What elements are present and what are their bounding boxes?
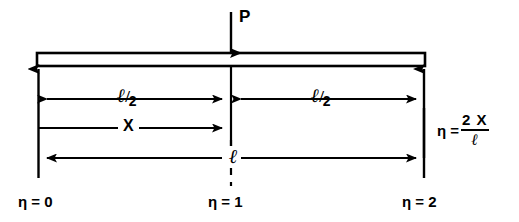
point-load-label: P — [239, 8, 250, 25]
eta-formula-fraction: 2 X ℓ — [461, 112, 489, 149]
station-label-eta-1: η = 1 — [208, 194, 243, 209]
beam-diagram-graphics — [0, 0, 519, 222]
eta-definition-formula: η = 2 X ℓ — [437, 112, 489, 149]
eta-formula-denominator: ℓ — [471, 131, 478, 149]
half-span-right-label: ℓ/2 — [311, 86, 332, 105]
eta-formula-lhs: η = — [437, 122, 459, 139]
full-span-label: ℓ — [226, 146, 241, 166]
half-span-left-label: ℓ/2 — [117, 86, 138, 105]
distance-x-label: X — [118, 118, 139, 134]
half-span-right-ell: ℓ — [311, 85, 319, 106]
station-label-eta-0: η = 0 — [18, 194, 53, 209]
station-label-eta-2: η = 2 — [402, 194, 437, 209]
eta-formula-numerator: 2 X — [461, 112, 489, 129]
half-span-left-ell: ℓ — [117, 85, 125, 106]
half-span-right-denominator: 2 — [323, 93, 331, 109]
half-span-left-denominator: 2 — [129, 93, 137, 109]
beam-member — [37, 53, 425, 66]
beam-diagram: P ℓ/2 ℓ/2 X ℓ η = 2 X ℓ η = 0 η = 1 η = … — [0, 0, 519, 222]
